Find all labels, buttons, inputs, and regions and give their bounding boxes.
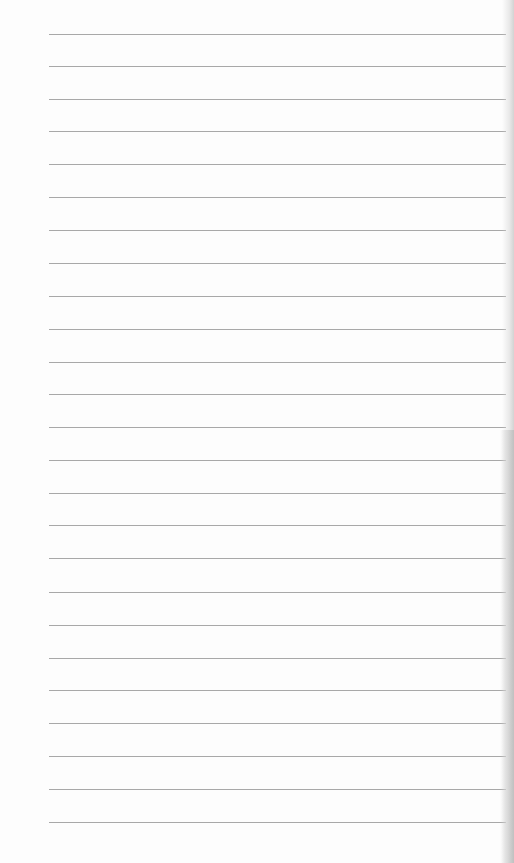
ruled-line [49,263,506,264]
ruled-line [49,723,506,724]
ruled-line [49,460,506,461]
ruled-line [49,394,506,395]
ruled-line [49,789,506,790]
ruled-line [49,756,506,757]
ruled-line [49,558,506,559]
ruled-line [49,230,506,231]
ruled-line [49,34,506,35]
ruled-line [49,427,506,428]
ruled-line [49,66,506,67]
ruled-line [49,690,506,691]
ruled-line [49,296,506,297]
page-edge-shadow-lower [500,430,514,863]
ruled-line [49,362,506,363]
ruled-line [49,197,506,198]
ruled-line [49,493,506,494]
ruled-line [49,99,506,100]
ruled-line [49,329,506,330]
ruled-line [49,131,506,132]
lined-paper-page [0,0,514,863]
ruled-line [49,525,506,526]
ruled-line [49,164,506,165]
ruled-line [49,658,506,659]
ruled-line [49,822,506,823]
ruled-line [49,592,506,593]
ruled-line [49,625,506,626]
